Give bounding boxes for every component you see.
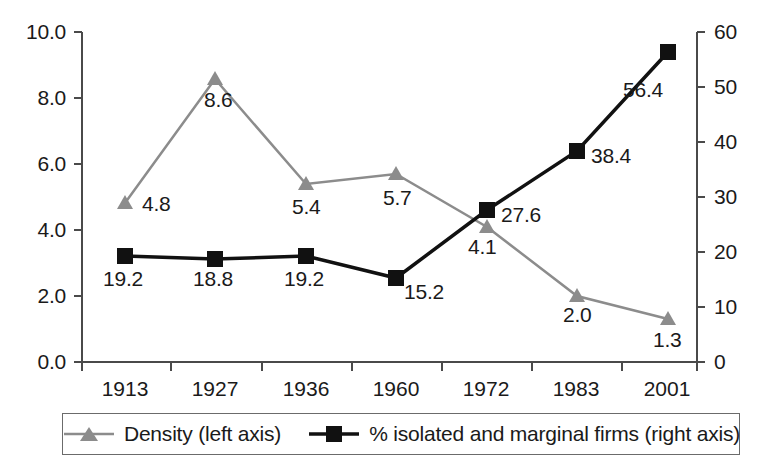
x-axis-tick-1983: 1983 xyxy=(531,377,621,401)
x-axis-tick-2001: 2001 xyxy=(622,377,712,401)
x-axis-tick-1960: 1960 xyxy=(351,377,441,401)
right-axis-tick-0: 0 xyxy=(714,350,725,374)
data-label-density-2001: 1.3 xyxy=(653,328,682,352)
data-label-density-1960: 5.7 xyxy=(383,186,412,210)
data-label-density-1972: 4.1 xyxy=(468,235,497,259)
legend-marker-triangle-icon xyxy=(62,424,116,444)
right-axis-tick-20: 20 xyxy=(714,240,737,264)
data-label-isolated-1983: 38.4 xyxy=(591,144,631,168)
data-label-density-1983: 2.0 xyxy=(563,303,592,327)
data-label-isolated-1936: 19.2 xyxy=(284,267,324,291)
left-axis-tick-0: 0.0 xyxy=(4,350,66,374)
left-axis-tick-4: 4.0 xyxy=(4,218,66,242)
x-axis-tick-1936: 1936 xyxy=(261,377,351,401)
left-axis-tick-8: 8.0 xyxy=(4,86,66,110)
right-axis-tick-50: 50 xyxy=(714,75,737,99)
x-axis-tick-1972: 1972 xyxy=(441,377,531,401)
right-axis-tick-10: 10 xyxy=(714,295,737,319)
series-line-isolated-firms xyxy=(125,52,668,278)
left-axis-ticks xyxy=(74,32,82,362)
right-axis-tick-40: 40 xyxy=(714,130,737,154)
plot-area xyxy=(0,0,774,475)
data-label-isolated-1913: 19.2 xyxy=(103,267,143,291)
legend-label-density: Density (left axis) xyxy=(124,422,281,446)
x-axis-tick-1927: 1927 xyxy=(170,377,260,401)
data-label-density-1927: 8.6 xyxy=(204,88,233,112)
data-label-isolated-1972: 27.6 xyxy=(501,203,541,227)
left-axis-tick-6: 6.0 xyxy=(4,152,66,176)
legend-label-isolated-firms: % isolated and marginal firms (right axi… xyxy=(369,422,740,446)
data-label-isolated-2001: 56.4 xyxy=(623,78,663,102)
legend-item-isolated-firms[interactable]: % isolated and marginal firms (right axi… xyxy=(307,422,740,446)
legend-marker-square-icon xyxy=(307,424,361,444)
right-axis-tick-30: 30 xyxy=(714,185,737,209)
x-axis-ticks xyxy=(82,362,697,371)
data-label-isolated-1927: 18.8 xyxy=(193,267,233,291)
right-axis-tick-60: 60 xyxy=(714,20,737,44)
data-label-density-1913: 4.8 xyxy=(142,192,171,216)
chart-container: 10.0 8.0 6.0 4.0 2.0 0.0 60 50 40 30 20 … xyxy=(0,0,774,475)
data-label-isolated-1960: 15.2 xyxy=(404,280,444,304)
legend-item-density[interactable]: Density (left axis) xyxy=(62,422,281,446)
left-axis-tick-2: 2.0 xyxy=(4,284,66,308)
right-axis-ticks xyxy=(697,32,705,362)
data-label-density-1936: 5.4 xyxy=(292,195,321,219)
left-axis-tick-10: 10.0 xyxy=(4,20,66,44)
chart-legend: Density (left axis) % isolated and margi… xyxy=(62,413,740,455)
x-axis-tick-1913: 1913 xyxy=(80,377,170,401)
